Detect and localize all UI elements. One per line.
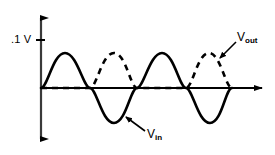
y-axis [36, 18, 45, 139]
v-in-pointer [126, 117, 145, 131]
v-in-label-base: V [147, 127, 155, 141]
v-in-label: Vin [147, 128, 162, 140]
v-out-pointer [220, 42, 236, 58]
v-out-curve [41, 53, 232, 88]
v-out-label: Vout [237, 31, 257, 43]
v-out-label-subscript: out [245, 36, 257, 45]
v-out-label-base: V [237, 30, 245, 44]
v-in-label-subscript: in [155, 133, 162, 142]
waveform-figure: .1 V Vout Vin [0, 0, 275, 155]
plot-canvas [0, 0, 275, 155]
y-axis-tick-label: .1 V [11, 34, 31, 45]
